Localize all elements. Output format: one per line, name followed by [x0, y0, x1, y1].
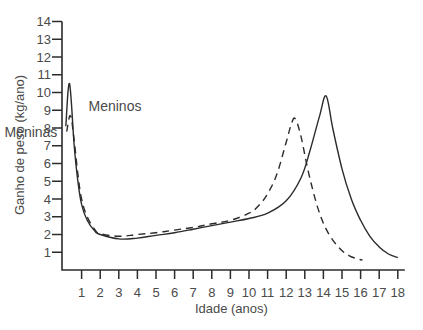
y-tick-label: 12: [37, 50, 51, 65]
x-tick-label: 12: [279, 285, 293, 300]
series-line-meninas: [67, 115, 363, 260]
weight-gain-chart: 1234567891011121314 12345678910111213141…: [0, 0, 423, 330]
y-tick-label: 13: [37, 32, 51, 47]
series-label-meninas: Meninas: [4, 124, 57, 140]
x-tick-label: 8: [208, 285, 215, 300]
x-tick-label: 14: [316, 285, 330, 300]
x-tick-label: 2: [97, 285, 104, 300]
y-tick-label: 9: [44, 103, 51, 118]
y-tick-label: 5: [44, 174, 51, 189]
y-tick-label: 14: [37, 14, 51, 29]
x-tick-label: 10: [242, 285, 256, 300]
y-tick-label: 10: [37, 85, 51, 100]
x-tick-label: 5: [152, 285, 159, 300]
x-tick-label: 18: [391, 285, 405, 300]
y-tick-label: 11: [38, 67, 52, 82]
x-tick-label: 15: [335, 285, 349, 300]
x-tick-label: 4: [134, 285, 141, 300]
x-tick-label: 13: [298, 285, 312, 300]
x-axis-ticks: 123456789101112131415161718: [78, 270, 405, 300]
y-tick-label: 3: [44, 209, 51, 224]
x-axis-label: Idade (anos): [195, 301, 268, 316]
y-tick-label: 4: [44, 192, 51, 207]
y-axis-label: Ganho de peso (kg/ano): [12, 75, 27, 215]
x-tick-label: 11: [261, 285, 275, 300]
x-tick-label: 7: [190, 285, 197, 300]
x-tick-label: 1: [78, 285, 85, 300]
series-label-meninos: Meninos: [89, 98, 142, 114]
x-tick-label: 3: [115, 285, 122, 300]
x-tick-label: 16: [353, 285, 367, 300]
x-tick-label: 17: [372, 285, 386, 300]
y-tick-label: 6: [44, 156, 51, 171]
y-tick-label: 2: [44, 227, 51, 242]
y-tick-label: 7: [44, 138, 51, 153]
x-tick-label: 9: [227, 285, 234, 300]
y-tick-label: 1: [44, 245, 51, 260]
x-tick-label: 6: [171, 285, 178, 300]
axes-frame: [62, 22, 405, 271]
